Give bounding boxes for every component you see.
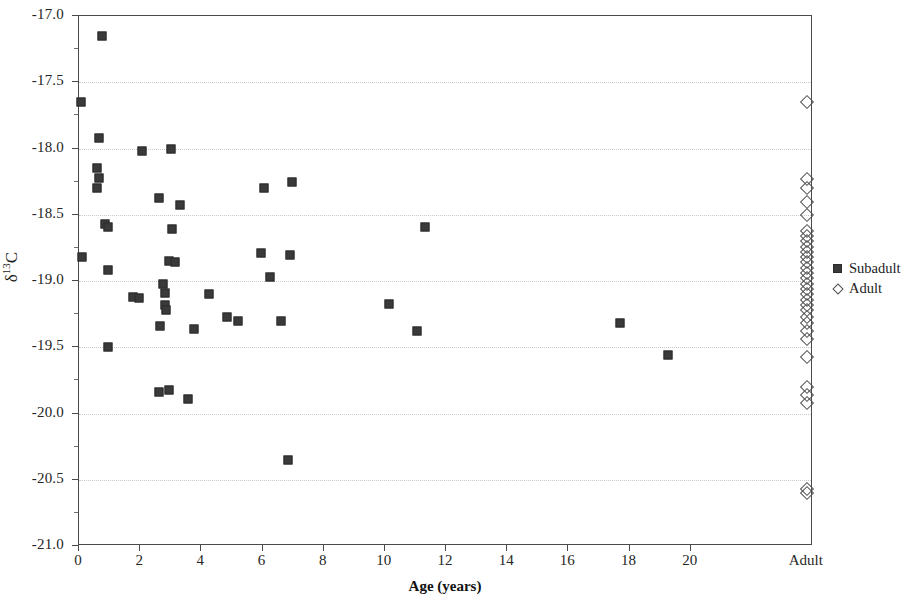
x-tick-mark bbox=[567, 545, 568, 551]
x-tick-label: 2 bbox=[135, 552, 143, 568]
data-point-subadult bbox=[420, 222, 429, 231]
data-point-subadult bbox=[284, 455, 293, 464]
x-tick-label: 6 bbox=[258, 552, 266, 568]
data-point-subadult bbox=[168, 225, 177, 234]
data-point-subadult bbox=[204, 290, 213, 299]
data-point-subadult bbox=[97, 31, 106, 40]
data-point-subadult bbox=[159, 279, 168, 288]
data-point-subadult bbox=[76, 98, 85, 107]
data-point-adult bbox=[800, 349, 814, 363]
legend-item-adult: Adult bbox=[832, 278, 916, 298]
x-tick-label: 16 bbox=[560, 552, 575, 568]
data-point-subadult bbox=[175, 201, 184, 210]
open-diamond-icon bbox=[832, 282, 844, 294]
gridline bbox=[79, 82, 811, 83]
data-point-adult bbox=[800, 194, 814, 208]
data-point-subadult bbox=[78, 253, 87, 262]
gridline bbox=[79, 281, 811, 282]
y-axis-title-element: C bbox=[2, 252, 21, 263]
data-point-subadult bbox=[154, 193, 163, 202]
data-point-subadult bbox=[183, 394, 192, 403]
data-point-subadult bbox=[286, 250, 295, 259]
data-point-subadult bbox=[260, 184, 269, 193]
gridline bbox=[79, 480, 811, 481]
x-tick-mark bbox=[629, 545, 630, 551]
x-tick-mark bbox=[78, 545, 79, 551]
data-point-subadult bbox=[663, 351, 672, 360]
data-point-subadult bbox=[266, 273, 275, 282]
y-tick-label: -17.5 bbox=[32, 73, 64, 88]
x-axis-title: Age (years) bbox=[78, 578, 812, 595]
y-tick-label: -20.5 bbox=[32, 471, 64, 486]
data-point-subadult bbox=[234, 316, 243, 325]
filled-square-icon bbox=[832, 262, 844, 274]
data-point-subadult bbox=[93, 164, 102, 173]
x-tick-mark bbox=[445, 545, 446, 551]
data-point-subadult bbox=[94, 133, 103, 142]
data-point-subadult bbox=[134, 294, 143, 303]
data-point-subadult bbox=[165, 385, 174, 394]
y-tick-label: -17.0 bbox=[32, 7, 64, 22]
data-point-subadult bbox=[156, 322, 165, 331]
y-tick-label: -18.0 bbox=[32, 140, 64, 155]
gridline bbox=[79, 347, 811, 348]
plot-area bbox=[78, 15, 812, 545]
x-tick-label: 18 bbox=[621, 552, 636, 568]
legend-label-subadult: Subadult bbox=[849, 260, 901, 276]
y-tick-label: -18.5 bbox=[32, 206, 64, 221]
data-point-subadult bbox=[154, 388, 163, 397]
data-point-subadult bbox=[223, 312, 232, 321]
gridline bbox=[79, 149, 811, 150]
data-point-subadult bbox=[104, 343, 113, 352]
data-point-subadult bbox=[162, 306, 171, 315]
x-tick-mark bbox=[690, 545, 691, 551]
data-point-subadult bbox=[94, 173, 103, 182]
data-point-subadult bbox=[412, 327, 421, 336]
x-tick-label: 4 bbox=[197, 552, 205, 568]
x-tick-label: 0 bbox=[74, 552, 82, 568]
y-tick-label: -21.0 bbox=[32, 537, 64, 552]
data-point-subadult bbox=[104, 266, 113, 275]
scatter-plot-figure: δ13C -17.0-17.5-18.0-18.5-19.0-19.5-20.0… bbox=[0, 0, 916, 602]
data-point-subadult bbox=[385, 299, 394, 308]
data-point-subadult bbox=[166, 144, 175, 153]
x-tick-mark bbox=[262, 545, 263, 551]
y-tick-label: -19.0 bbox=[32, 272, 64, 287]
y-tick-label: -19.5 bbox=[32, 338, 64, 353]
data-point-subadult bbox=[160, 288, 169, 297]
data-point-subadult bbox=[189, 324, 198, 333]
x-tick-mark bbox=[506, 545, 507, 551]
x-tick-label: 8 bbox=[319, 552, 327, 568]
data-point-subadult bbox=[93, 184, 102, 193]
data-point-subadult bbox=[171, 258, 180, 267]
data-point-subadult bbox=[104, 222, 113, 231]
x-tick-mark bbox=[200, 545, 201, 551]
y-tick-label: -20.0 bbox=[32, 405, 64, 420]
data-point-subadult bbox=[256, 249, 265, 258]
data-point-adult bbox=[800, 181, 814, 195]
y-axis-title-delta: δ bbox=[2, 274, 21, 282]
x-tick-label: 12 bbox=[438, 552, 453, 568]
x-tick-label: Adult bbox=[789, 552, 823, 568]
data-point-adult bbox=[800, 332, 814, 346]
x-tick-mark bbox=[384, 545, 385, 551]
data-point-adult bbox=[800, 95, 814, 109]
data-point-subadult bbox=[616, 319, 625, 328]
legend-label-adult: Adult bbox=[849, 280, 882, 296]
x-tick-label: 10 bbox=[376, 552, 391, 568]
y-axis-title: δ13C bbox=[3, 237, 21, 297]
data-point-subadult bbox=[137, 147, 146, 156]
legend-item-subadult: Subadult bbox=[832, 258, 916, 278]
gridline bbox=[79, 215, 811, 216]
data-point-subadult bbox=[287, 177, 296, 186]
gridline bbox=[79, 414, 811, 415]
data-point-subadult bbox=[276, 316, 285, 325]
x-tick-mark bbox=[323, 545, 324, 551]
data-point-adult bbox=[800, 208, 814, 222]
chart-legend: Subadult Adult bbox=[832, 258, 916, 298]
x-tick-label: 20 bbox=[682, 552, 697, 568]
x-tick-mark bbox=[139, 545, 140, 551]
y-axis-title-superscript: 13 bbox=[0, 263, 12, 274]
x-tick-label: 14 bbox=[499, 552, 514, 568]
